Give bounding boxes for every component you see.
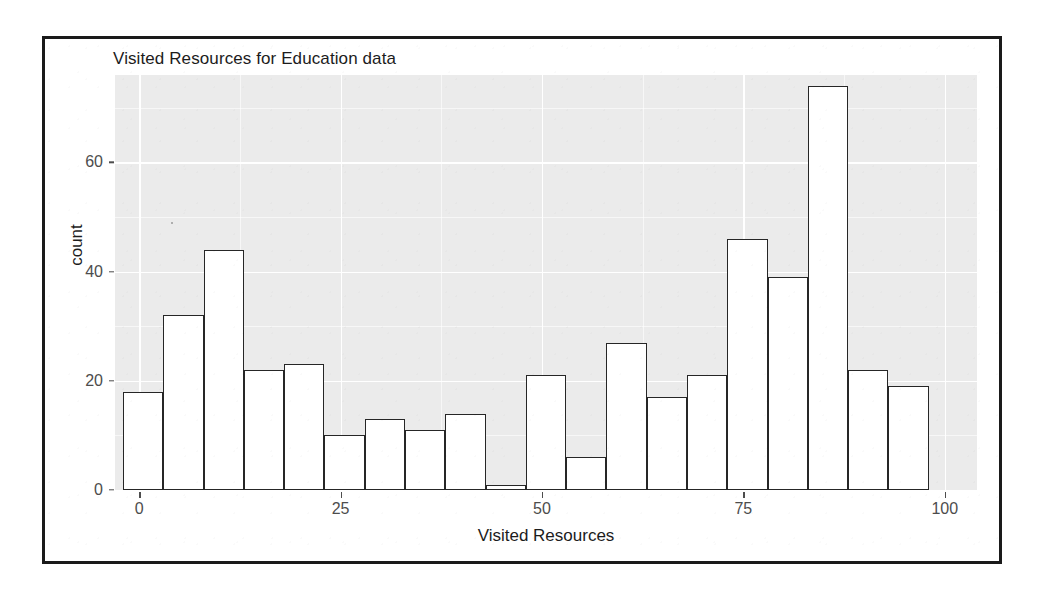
histogram-bar (848, 370, 888, 490)
histogram-bar (445, 414, 485, 490)
histogram-bar (808, 86, 848, 490)
histogram-bar (727, 239, 767, 490)
y-tick-mark (109, 162, 114, 163)
x-tick-label: 0 (135, 500, 144, 518)
histogram-bar (687, 375, 727, 490)
histogram-bar (244, 370, 284, 490)
histogram-bar (163, 315, 203, 490)
x-tick-mark (743, 492, 744, 498)
y-tick-label: 20 (63, 372, 103, 390)
x-tick-mark (542, 492, 543, 498)
histogram-bar (647, 397, 687, 490)
chart-title: Visited Resources for Education data (113, 49, 396, 69)
gridline-vertical-major (341, 75, 343, 490)
histogram-bar (486, 485, 526, 490)
y-tick-label: 60 (63, 153, 103, 171)
figure-frame: Visited Resources for Education data 020… (42, 36, 1002, 564)
x-tick-label: 50 (533, 500, 551, 518)
histogram-bar (365, 419, 405, 490)
y-tick-mark (109, 489, 114, 490)
x-tick-mark (341, 492, 342, 498)
y-axis-title: count (67, 185, 87, 305)
y-tick-mark (109, 380, 114, 381)
histogram-bar (324, 435, 364, 490)
x-tick-mark (139, 492, 140, 498)
histogram-bar (284, 364, 324, 490)
histogram-bar (888, 386, 928, 490)
x-tick-mark (945, 492, 946, 498)
histogram-bar (606, 343, 646, 490)
histogram-bar (204, 250, 244, 490)
x-tick-label: 25 (332, 500, 350, 518)
histogram-chart: Visited Resources for Education data 020… (45, 39, 999, 561)
gridline-vertical-minor (441, 75, 442, 490)
y-tick-label: 0 (63, 481, 103, 499)
histogram-bar (566, 457, 606, 490)
y-tick-mark (109, 271, 114, 272)
gridline-vertical-major (945, 75, 947, 490)
x-tick-label: 75 (734, 500, 752, 518)
histogram-bar (768, 277, 808, 490)
histogram-bar (405, 430, 445, 490)
x-tick-label: 100 (931, 500, 958, 518)
histogram-bar (526, 375, 566, 490)
x-axis-title: Visited Resources (115, 526, 977, 546)
plot-panel (115, 75, 977, 490)
scan-speck (171, 222, 173, 224)
histogram-bar (123, 392, 163, 490)
